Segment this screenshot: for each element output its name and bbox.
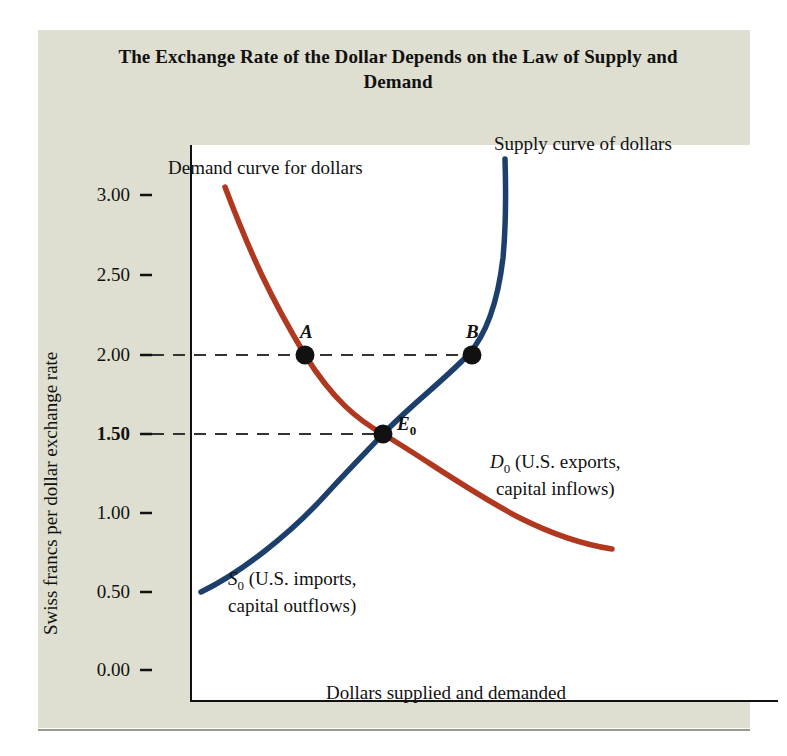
- plot-area: [190, 145, 778, 702]
- point-a-label: A: [300, 321, 313, 343]
- point-e0-label: E0: [397, 413, 416, 439]
- y-tick-label-3-00: 3.00: [58, 184, 130, 206]
- x-axis-title: Dollars supplied and demanded: [152, 682, 740, 704]
- supply-curve-label: Supply curve of dollars: [494, 133, 672, 155]
- chart-title: The Exchange Rate of the Dollar Depends …: [108, 44, 688, 94]
- y-tick-label-1-50: 1.50: [58, 423, 130, 445]
- supply-annotation: S0 (U.S. imports, capital outflows): [228, 567, 356, 618]
- point-b-label: B: [466, 321, 479, 343]
- demand-curve-label: Demand curve for dollars: [168, 157, 363, 179]
- y-tick-label-0-00: 0.00: [58, 659, 130, 681]
- y-tick-label-2-00: 2.00: [58, 344, 130, 366]
- y-tick-label-1-00: 1.00: [58, 502, 130, 524]
- demand-annotation: D0 (U.S. exports, capital inflows): [490, 450, 621, 501]
- y-axis-title: Swiss francs per dollar exchange rate: [40, 352, 62, 635]
- y-tick-label-0-50: 0.50: [58, 581, 130, 603]
- y-tick-label-2-50: 2.50: [58, 264, 130, 286]
